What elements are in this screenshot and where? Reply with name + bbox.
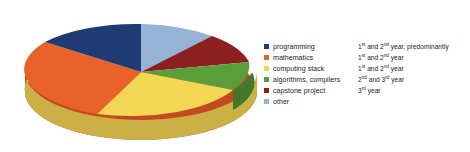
legend-item-programming: programming 1st and 2nd year, predominan… (264, 41, 470, 52)
legend-item-label: programming (273, 41, 315, 52)
legend-swatch-icon (264, 88, 269, 93)
note-suffix: year, predominantly (389, 43, 449, 50)
note-mid: and 3 (367, 76, 385, 83)
legend-item-other: other (264, 96, 470, 107)
note-suffix: year (389, 76, 404, 83)
legend-item-note: 1st and 2nd year (358, 63, 404, 74)
legend-item-label: capstone project (273, 85, 325, 96)
legend-item-label: computing stack (273, 63, 324, 74)
note-suffix: year (389, 54, 404, 61)
note-suffix: year (389, 65, 404, 72)
legend-item-label: other (273, 96, 289, 107)
legend-item-computing-stack: computing stack 1st and 2nd year (264, 63, 470, 74)
legend-item-note: 2nd and 3rd year (358, 74, 404, 85)
legend-swatch-icon (264, 66, 269, 71)
note-suffix: year (366, 87, 381, 94)
legend-item-label: mathematics (273, 52, 313, 63)
note-mid: and 2 (365, 54, 383, 61)
legend-item-label: algorithms, compilers (273, 74, 340, 85)
legend-item-mathematics: mathematics 1st and 2nd year (264, 52, 470, 63)
legend-swatch-icon (264, 77, 269, 82)
note-mid: and 2 (365, 65, 383, 72)
legend-swatch-icon (264, 99, 269, 104)
legend-item-note: 1st and 2nd year (358, 52, 404, 63)
pie-chart-page: programming 1st and 2nd year, predominan… (0, 0, 470, 152)
legend-swatch-icon (264, 55, 269, 60)
pie-chart-figure (0, 0, 262, 152)
note-mid: and 2 (365, 43, 383, 50)
chart-legend: programming 1st and 2nd year, predominan… (264, 41, 470, 107)
legend-item-capstone-project: capstone project 3rd year (264, 85, 470, 96)
legend-item-note: 3rd year (358, 85, 381, 96)
legend-item-note: 1st and 2nd year, predominantly (358, 41, 449, 52)
legend-swatch-icon (264, 44, 269, 49)
pie-chart-svg (0, 0, 262, 152)
legend-item-algorithms-compilers: algorithms, compilers 2nd and 3rd year (264, 74, 470, 85)
